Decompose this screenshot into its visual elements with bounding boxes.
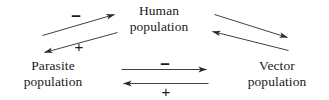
node-vector-population: Vector population xyxy=(228,58,326,89)
node-vector-population-line2: population xyxy=(228,74,326,90)
node-parasite-population-line1: Parasite xyxy=(4,58,102,74)
node-vector-population-line1: Vector xyxy=(228,58,326,74)
population-feedback-diagram: Human population Parasite population Vec… xyxy=(0,0,329,100)
edge-label-parasite-to-vector: – xyxy=(157,55,173,72)
node-human-population-line1: Human xyxy=(111,3,207,19)
node-parasite-population: Parasite population xyxy=(4,58,102,89)
edge-label-parasite-to-human: – xyxy=(68,7,84,24)
edge-label-human-to-parasite: + xyxy=(71,39,87,54)
node-human-population: Human population xyxy=(111,3,207,34)
node-human-population-line2: population xyxy=(111,19,207,35)
node-parasite-population-line2: population xyxy=(4,74,102,90)
edge-human-to-vector xyxy=(215,15,288,38)
edge-label-vector-to-parasite: + xyxy=(158,84,174,99)
